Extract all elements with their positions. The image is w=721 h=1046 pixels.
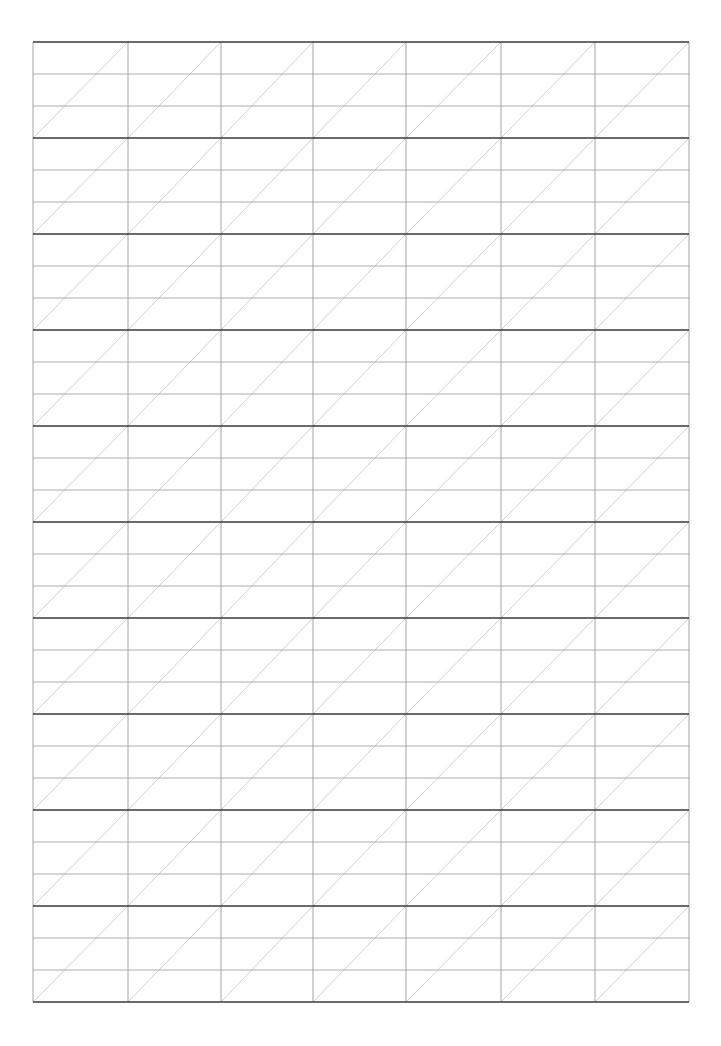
diagonal-line [313,234,406,330]
diagonal-line [313,522,406,618]
practice-grid-sheet [0,0,721,1046]
diagonal-line [221,522,313,618]
diagonal-line [313,426,406,522]
diagonal-line [313,138,406,234]
diagonal-line [221,138,313,234]
diagonal-line [406,522,501,618]
diagonal-line [595,138,689,234]
diagonal-line [406,906,501,1002]
diagonal-line [221,906,313,1002]
diagonal-line [221,330,313,426]
diagonal-line [33,714,128,810]
diagonal-line [313,714,406,810]
diagonal-line [501,714,595,810]
diagonal-line [33,42,128,138]
diagonal-line [595,906,689,1002]
diagonal-line [128,426,221,522]
diagonal-line [221,234,313,330]
diagonal-line [501,618,595,714]
diagonal-line [128,138,221,234]
diagonal-line [313,906,406,1002]
diagonal-line [33,522,128,618]
diagonal-line [33,618,128,714]
diagonal-line [221,810,313,906]
diagonal-line [501,906,595,1002]
diagonal-line [128,330,221,426]
diagonal-line [406,426,501,522]
diagonal-line [128,42,221,138]
diagonal-line [221,618,313,714]
diagonal-line [33,810,128,906]
diagonal-line [33,906,128,1002]
diagonal-line [406,42,501,138]
diagonal-line [406,330,501,426]
diagonal-line [128,714,221,810]
diagonal-line [128,810,221,906]
diagonal-line [406,138,501,234]
diagonal-line [221,42,313,138]
diagonal-line [313,42,406,138]
diagonal-line [313,618,406,714]
diagonal-line [313,330,406,426]
diagonal-line [128,234,221,330]
diagonal-line [501,330,595,426]
block-lines [33,42,689,1002]
diagonal-line [221,714,313,810]
diagonal-line [501,234,595,330]
diagonal-line [595,234,689,330]
diagonal-line [501,138,595,234]
diagonal-line [501,426,595,522]
diagonal-line [33,330,128,426]
diagonal-line [595,522,689,618]
diagonal-line [128,906,221,1002]
diagonal-line [406,810,501,906]
diagonal-line [595,426,689,522]
diagonal-line [595,714,689,810]
diagonal-line [501,42,595,138]
diagonal-line [595,330,689,426]
diagonal-line [33,234,128,330]
diagonal-line [595,618,689,714]
diagonal-line [313,810,406,906]
diagonal-line [406,234,501,330]
diagonal-line [128,522,221,618]
diagonal-line [221,426,313,522]
diagonal-line [406,618,501,714]
diagonal-line [406,714,501,810]
diagonal-line [33,138,128,234]
diagonal-line [501,522,595,618]
diagonal-line [128,618,221,714]
diagonal-line [595,810,689,906]
diagonal-line [501,810,595,906]
diagonal-line [595,42,689,138]
diagonal-line [33,426,128,522]
